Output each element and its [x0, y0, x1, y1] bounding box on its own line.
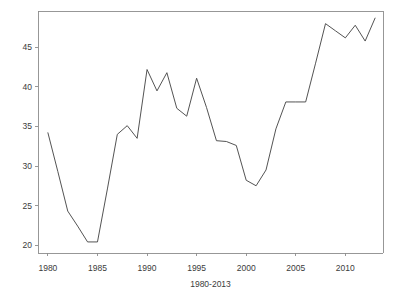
- plot-frame: [38, 11, 383, 253]
- y-tick-label: 25: [23, 201, 33, 211]
- x-tick-label: 2010: [336, 263, 355, 273]
- axis-frame: [38, 11, 383, 253]
- chart-canvas: 202530354045 198019851990199520002005201…: [0, 0, 400, 302]
- x-tick-label: 1980: [38, 263, 57, 273]
- line-chart: 202530354045 198019851990199520002005201…: [0, 0, 400, 302]
- y-tick-label: 30: [23, 161, 33, 171]
- x-axis-tick-labels: 1980198519901995200020052010: [38, 263, 355, 273]
- x-tick-label: 1990: [138, 263, 157, 273]
- x-tick-label: 1995: [187, 263, 206, 273]
- y-tick-label: 20: [23, 240, 33, 250]
- y-tick-label: 45: [23, 42, 33, 52]
- x-tick-label: 1985: [88, 263, 107, 273]
- x-tick-label: 2000: [237, 263, 256, 273]
- data-line-series-1: [48, 18, 375, 242]
- y-tick-label: 40: [23, 82, 33, 92]
- x-axis-title: 1980-2013: [190, 279, 231, 289]
- y-axis-tick-labels: 202530354045: [23, 42, 33, 250]
- data-series-group: [48, 18, 375, 242]
- x-tick-label: 2005: [286, 263, 305, 273]
- y-tick-label: 35: [23, 121, 33, 131]
